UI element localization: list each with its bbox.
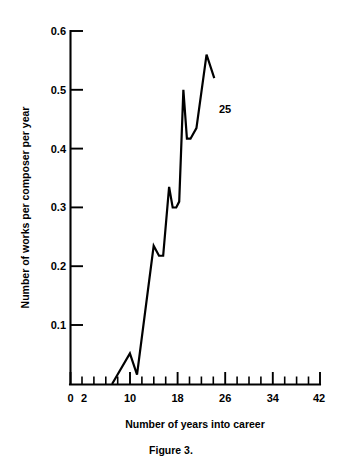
- y-axis-title: Number of works per composer per year: [19, 107, 31, 309]
- x-axis-major-ticks: [71, 372, 321, 384]
- x-tick-label: 2: [81, 392, 87, 404]
- figure-container: 0.6 0.5 0.4 0.3 0.2 0.1: [0, 0, 342, 466]
- data-series-line: [112, 55, 214, 384]
- y-tick-label: 0.1: [51, 319, 66, 331]
- y-tick-label: 0.5: [51, 84, 66, 96]
- chart-plot: 0.6 0.5 0.4 0.3 0.2 0.1: [0, 0, 342, 466]
- figure-caption: Figure 3.: [149, 444, 193, 456]
- y-tick-label: 0.4: [51, 143, 67, 155]
- y-axis-ticks: [70, 31, 83, 325]
- x-tick-label: 10: [124, 392, 136, 404]
- y-tick-label: 0.6: [51, 25, 66, 37]
- x-tick-label: 18: [171, 392, 183, 404]
- x-axis-tick-labels: 0 2 10 18 26 34 42: [67, 392, 325, 404]
- x-axis-title: Number of years into career: [125, 418, 264, 430]
- y-tick-label: 0.2: [51, 260, 66, 272]
- data-annotation-label: 25: [219, 103, 231, 115]
- x-tick-label: 26: [219, 392, 231, 404]
- y-tick-label: 0.3: [51, 201, 66, 213]
- x-tick-label: 34: [267, 392, 280, 404]
- y-axis-tick-labels: 0.6 0.5 0.4 0.3 0.2 0.1: [51, 25, 67, 331]
- x-tick-label: 42: [313, 392, 325, 404]
- x-tick-label: 0: [67, 392, 73, 404]
